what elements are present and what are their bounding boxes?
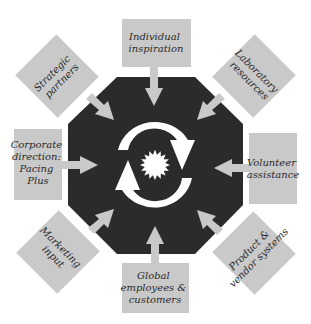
sunburst-icon [140, 150, 170, 180]
input-label-bottom-line3: customers [129, 294, 182, 305]
input-label-left-line2: direction: [12, 151, 61, 162]
input-label-right-line1: Volunteer [247, 157, 297, 168]
input-label-left-line1: Corporate [11, 139, 63, 150]
innovation-hub-diagram: Individual inspiration Strategic partner… [0, 0, 311, 324]
input-label-right-line2: assistance [247, 169, 300, 180]
input-label-bottom-line1: Global [137, 270, 170, 281]
svg-text:Individual inspiration: Individual inspiration [128, 31, 183, 54]
input-label-bottom-line2: employees & [121, 282, 187, 293]
svg-text:Volunteer assistance: Volunteer assistance [247, 157, 300, 180]
input-label-left-line3: Pacing [18, 163, 53, 174]
input-label-left-line4: Plus [26, 175, 49, 186]
input-label-top-line1: Individual [128, 31, 180, 42]
input-label-top-line2: inspiration [129, 43, 184, 54]
